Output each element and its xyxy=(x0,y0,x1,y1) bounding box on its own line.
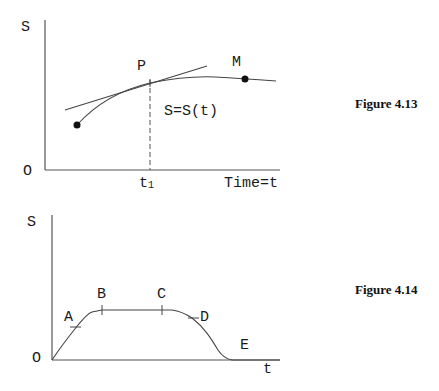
x-axis-label: Time=t xyxy=(224,175,278,192)
x-axis-label: t xyxy=(263,361,272,378)
y-axis-label: S xyxy=(27,214,36,231)
origin-label: O xyxy=(32,350,41,367)
point-e-label: E xyxy=(240,337,249,354)
origin-label: O xyxy=(23,163,32,180)
point-d-label: D xyxy=(200,309,209,326)
point-p-label: P xyxy=(137,58,146,75)
y-axis-label: S xyxy=(21,19,30,36)
t1-label: t1 xyxy=(139,175,154,192)
point-a-label: A xyxy=(64,309,73,326)
point-b-label: B xyxy=(97,286,106,303)
point-c-label: C xyxy=(157,286,166,303)
figure-caption: Figure 4.13 xyxy=(355,96,418,111)
start-point-dot xyxy=(74,122,81,129)
figures-canvas: S O Time=t P M S=S(t) t1 Figure 4.13 S O… xyxy=(0,0,439,391)
figure-4-13: S O Time=t P M S=S(t) t1 Figure 4.13 xyxy=(21,19,418,192)
point-m-dot xyxy=(242,76,249,83)
figure-4-14: S O t A B C D E Figure 4.14 xyxy=(27,214,418,378)
function-label: S=S(t) xyxy=(164,103,218,120)
figure-caption: Figure 4.14 xyxy=(355,282,418,297)
point-m-label: M xyxy=(232,54,241,71)
